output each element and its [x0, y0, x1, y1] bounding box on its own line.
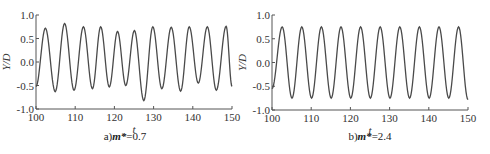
x-tick-label: 130 [381, 112, 398, 124]
x-tick-label: 100 [264, 112, 281, 124]
y-tick-label: 0.5 [256, 33, 270, 45]
x-tick-label: 110 [303, 112, 320, 124]
x-tick-label: 140 [185, 111, 202, 123]
y-tick-label: -0.5 [253, 80, 271, 92]
x-tick-label: 120 [342, 112, 359, 124]
y-tick-label: 0.0 [20, 56, 34, 68]
caption-value: =0.7 [126, 130, 146, 142]
series-line [272, 27, 468, 100]
caption-value: =2.4 [372, 130, 392, 142]
x-tick-label: 110 [67, 111, 84, 123]
caption-variable: m* [112, 130, 127, 142]
plot-b: 1.00.50.0-0.5-1.0100110120130140150Y/Dtb… [236, 9, 477, 143]
x-tick-label: 100 [28, 111, 45, 123]
y-tick-label: -0.5 [17, 80, 35, 92]
caption-variable: m* [358, 130, 373, 142]
caption-prefix: a) [104, 130, 113, 143]
y-tick-label: 0.0 [256, 57, 270, 69]
y-axis-label: Y/D [0, 53, 12, 70]
plot-a: 1.00.50.0-0.5-1.0100110120130140150Y/Dta… [0, 9, 241, 143]
x-tick-label: 150 [460, 112, 477, 124]
x-tick-label: 150 [224, 111, 241, 123]
x-tick-label: 130 [145, 111, 162, 123]
y-tick-label: 0.5 [20, 33, 34, 45]
x-tick-label: 120 [106, 111, 123, 123]
x-tick-label: 140 [421, 112, 438, 124]
caption-prefix: b) [348, 130, 358, 143]
series-line [36, 23, 232, 100]
y-tick-label: 1.0 [256, 9, 270, 21]
chart-canvas: 1.00.50.0-0.5-1.0100110120130140150Y/Dta… [0, 0, 490, 154]
subplot-caption: b)m*=2.4 [348, 130, 392, 143]
y-tick-label: 1.0 [20, 9, 34, 21]
subplot-caption: a)m*=0.7 [104, 130, 147, 143]
y-axis-label: Y/D [236, 54, 248, 71]
